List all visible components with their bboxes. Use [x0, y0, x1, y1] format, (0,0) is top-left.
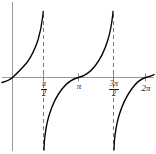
axis-label-three-pi-over-2: 3π 2 — [106, 80, 122, 99]
pi-over-2-numerator: π — [41, 80, 47, 88]
three-pi-over-2-numerator: 3π — [109, 80, 119, 88]
axis-label-pi: π — [74, 82, 84, 91]
tangent-branch-1 — [2, 12, 43, 83]
three-pi-over-2-denominator: 2 — [109, 90, 119, 98]
plot-canvas — [0, 0, 156, 154]
axis-label-pi-over-2: π 2 — [38, 80, 50, 99]
axis-label-two-pi: 2π — [138, 84, 154, 93]
pi-over-2-denominator: 2 — [41, 90, 47, 98]
tangent-graph-figure: π 2 π 3π 2 2π — [0, 0, 156, 154]
